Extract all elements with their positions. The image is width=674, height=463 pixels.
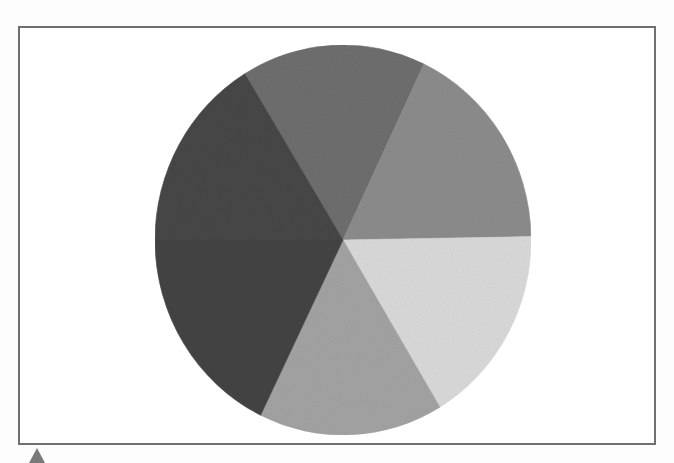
painted-pie xyxy=(0,0,674,463)
triangle-marker-icon xyxy=(29,448,45,463)
